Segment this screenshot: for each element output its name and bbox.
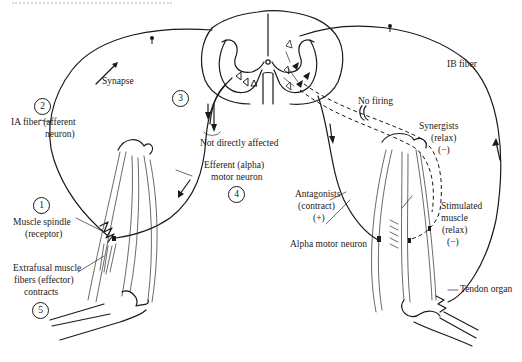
label-extrafusal-3: contracts <box>24 287 58 298</box>
spinal-cord-top-outline <box>212 11 332 31</box>
shoulder-outline <box>118 140 152 154</box>
label-ia-fiber-2: neuron) <box>45 129 75 140</box>
label-antagonists-3: (+) <box>313 213 325 224</box>
arrowhead <box>211 124 217 132</box>
label-no-firing: No firing <box>358 96 393 107</box>
label-synapse: Synapse <box>102 76 134 87</box>
step-4-efferent: 4 <box>228 186 245 203</box>
label-efferent-2: motor neuron <box>211 172 262 183</box>
label-extrafusal-2: fibers (effector) <box>14 275 74 286</box>
motor-end-plate <box>112 236 116 241</box>
step-2-ia-fiber: 2 <box>34 98 51 115</box>
efferent-direction-arrow <box>180 180 190 194</box>
label-synergists-3: (−) <box>438 145 450 156</box>
arrowhead <box>329 136 335 144</box>
label-efferent: Efferent (alpha) <box>204 160 264 171</box>
label-synergists-2: (relax) <box>431 133 456 144</box>
label-stimulated-muscle-2: muscle <box>441 213 468 224</box>
reflex-diagram: Synapse 3 2 IA fiber (afferent neuron) N… <box>0 0 522 362</box>
forearm <box>50 304 146 340</box>
synapse-triangle <box>236 72 241 80</box>
label-ib-fiber: IB fiber <box>447 59 477 70</box>
right-arm <box>371 134 478 347</box>
step-3-synapse: 3 <box>172 90 189 107</box>
arrowhead <box>178 190 184 198</box>
anterior-median-fissure <box>263 73 273 105</box>
label-antagonists-2: (contract) <box>298 201 335 212</box>
central-canal <box>266 60 270 64</box>
gray-matter-left-dorsal <box>222 40 264 72</box>
alpha-motor-neuron-path <box>318 96 378 240</box>
left-arm <box>50 140 157 340</box>
synapse-triangle <box>243 78 248 86</box>
label-antagonists: Antagonists <box>295 189 340 200</box>
leader-efferent <box>176 170 192 176</box>
elbow-joint <box>122 291 148 306</box>
arrowhead <box>492 138 499 146</box>
label-extrafusal: Extrafusal muscle <box>13 263 81 274</box>
label-tendon-organ: Tendon organ <box>460 284 512 295</box>
synergist-end-plate <box>408 238 411 243</box>
label-ia-fiber: IA fiber (afferent <box>11 117 76 128</box>
label-muscle-spindle: Muscle spindle <box>13 217 71 228</box>
humerus-outline <box>122 156 139 296</box>
spinal-cord <box>201 11 342 105</box>
label-stimulated-muscle: Stimulated <box>441 201 482 212</box>
label-muscle-spindle-2: (receptor) <box>25 229 62 240</box>
biceps-outline <box>416 150 436 300</box>
label-stimulated-muscle-4: (−) <box>447 237 459 248</box>
label-not-directly-affected: Not directly affected <box>200 138 278 149</box>
inhibition-arrowhead <box>303 72 310 80</box>
elbow-joint <box>402 300 440 317</box>
antagonist-fibers <box>390 220 398 248</box>
tendon-organ <box>436 296 446 312</box>
leader-synergists <box>402 196 412 208</box>
label-stimulated-muscle-3: (relax) <box>442 225 467 236</box>
step-1-muscle-spindle: 1 <box>33 197 50 214</box>
triceps-outline <box>371 150 392 312</box>
synapse-triangle <box>286 40 292 48</box>
synapse-triangle <box>286 82 291 90</box>
forearm <box>414 312 478 346</box>
label-synergists: Synergists <box>419 121 458 132</box>
gray-matter-right-dorsal <box>272 40 314 72</box>
leader-muscle-spindle <box>76 218 104 232</box>
step-5-extrafusal: 5 <box>32 302 49 319</box>
humerus-outline <box>402 152 411 302</box>
shoulder-outline <box>382 134 426 149</box>
label-alpha-motor-neuron: Alpha motor neuron <box>290 239 367 250</box>
